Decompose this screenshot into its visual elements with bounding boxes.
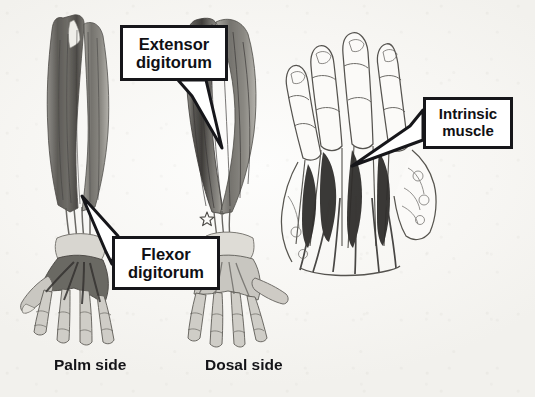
dorsal-digit-rays: [188, 292, 267, 347]
extensor-digitorum-callout[interactable]: Extensor digitorum: [120, 25, 228, 81]
anatomy-illustration-layer: [0, 0, 535, 397]
intrinsic-hand-panel: [281, 33, 436, 276]
callout-line-1: Flexor: [141, 245, 191, 263]
hypothenar-ulnar-border: [281, 162, 298, 262]
callout-line-2: muscle: [442, 123, 494, 140]
intrinsic-muscle-callout[interactable]: Intrinsic muscle: [423, 97, 513, 149]
callout-line-2: digitorum: [128, 263, 204, 281]
caption-palm-side: Palm side: [54, 356, 126, 374]
callout-line-1: Intrinsic: [439, 106, 497, 123]
hand-finger-outlines: [286, 33, 408, 160]
caption-dorsal-side: Dosal side: [205, 356, 283, 374]
callout-line-1: Extensor: [139, 35, 210, 53]
anatomy-figure: Extensor digitorum Flexor digitorum Intr…: [0, 0, 535, 397]
callout-line-2: digitorum: [136, 53, 212, 71]
star-marker: [199, 211, 215, 227]
palm-side-panel: [21, 15, 114, 345]
flexor-digitorum-callout[interactable]: Flexor digitorum: [112, 236, 220, 290]
thenar-radial-border: [394, 150, 436, 239]
interosseous-muscles-of-hand: [302, 150, 390, 248]
palmar-forearm-superficial-muscle: [82, 23, 109, 212]
